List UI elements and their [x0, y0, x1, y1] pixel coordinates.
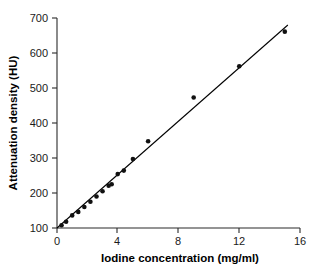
regression-fit-line [57, 25, 288, 228]
y-tick-label: 500 [30, 82, 48, 94]
y-axis-title: Attenuation density (HU) [7, 55, 19, 190]
x-axis-tick-labels: 0 4 8 12 16 [54, 235, 306, 247]
data-point [283, 29, 288, 34]
attenuation-vs-iodine-scatter-plot: 700 600 500 400 300 200 100 0 4 8 12 16 … [0, 0, 322, 270]
scatter-points-group [59, 29, 287, 227]
x-tick-label: 0 [54, 235, 60, 247]
data-point [70, 213, 75, 218]
y-tick-label: 100 [30, 222, 48, 234]
x-tick-label: 12 [233, 235, 245, 247]
data-point [237, 64, 242, 69]
data-point [59, 223, 64, 228]
x-tick-label: 8 [175, 235, 181, 247]
y-tick-label: 300 [30, 152, 48, 164]
data-point [82, 205, 87, 210]
x-tick-label: 16 [294, 235, 306, 247]
data-point [115, 172, 120, 177]
data-point [191, 95, 196, 100]
data-point [100, 189, 105, 194]
data-point [94, 194, 99, 199]
data-point [109, 182, 114, 187]
data-point [131, 157, 136, 162]
data-point [146, 139, 151, 144]
y-tick-label: 700 [30, 12, 48, 24]
data-point [64, 219, 69, 224]
x-axis-title: Iodine concentration (mg/ml) [101, 252, 259, 264]
y-axis-ticks [52, 18, 57, 228]
y-axis-tick-labels: 700 600 500 400 300 200 100 [30, 12, 48, 234]
y-tick-label: 400 [30, 117, 48, 129]
y-tick-label: 200 [30, 187, 48, 199]
y-tick-label: 600 [30, 47, 48, 59]
chart-figure: 700 600 500 400 300 200 100 0 4 8 12 16 … [0, 0, 322, 270]
x-tick-label: 4 [114, 235, 120, 247]
x-axis-ticks [57, 228, 300, 233]
data-point [122, 168, 127, 173]
data-point [76, 210, 81, 215]
data-point [88, 199, 93, 204]
